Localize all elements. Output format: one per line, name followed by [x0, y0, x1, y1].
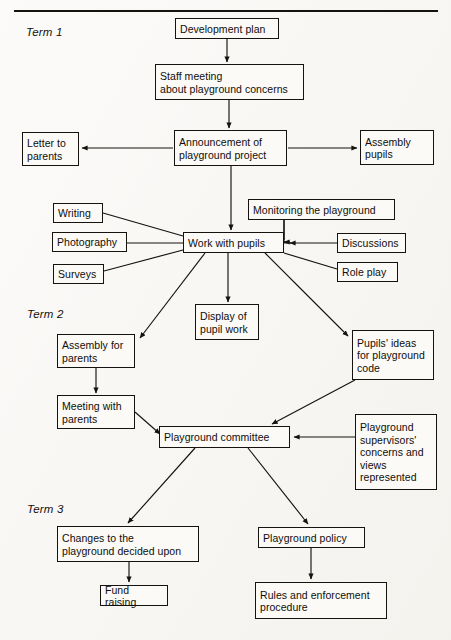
node-changes-to-playground[interactable]: Changes to theplayground decided upon	[57, 526, 199, 562]
node-label-line: Surveys	[58, 268, 96, 281]
node-label-line: Display of	[200, 310, 248, 323]
edge-monitoring-work	[284, 220, 291, 243]
term-label-term-1: Term 1	[26, 26, 63, 38]
node-label-line: for playground	[357, 349, 425, 362]
node-label-line: Photography	[57, 236, 117, 249]
node-label-supervisors-concerns: Playgroundsupervisors'concerns andviewsr…	[360, 421, 424, 484]
header-divider	[14, 10, 438, 12]
node-label-changes-to-playground: Changes to theplayground decided upon	[62, 532, 181, 557]
node-label-line: Changes to the	[62, 532, 181, 545]
node-letter-to-parents[interactable]: Letter toparents	[22, 132, 79, 166]
node-label-line: Playground committee	[164, 431, 269, 444]
node-supervisors-concerns[interactable]: Playgroundsupervisors'concerns andviewsr…	[355, 414, 437, 490]
node-writing[interactable]: Writing	[53, 203, 103, 223]
node-announcement[interactable]: Announcement ofplayground project	[174, 130, 287, 166]
node-label-line: parents	[62, 413, 122, 426]
node-label-photography: Photography	[57, 236, 117, 249]
node-label-line: procedure	[260, 601, 370, 614]
node-staff-meeting[interactable]: Staff meetingabout playground concerns	[155, 64, 304, 100]
node-label-writing: Writing	[58, 207, 91, 220]
node-playground-committee[interactable]: Playground committee	[159, 426, 290, 448]
node-assembly-pupils[interactable]: Assemblypupils	[360, 130, 434, 165]
node-label-line: supervisors'	[360, 434, 424, 447]
node-label-line: Staff meeting	[160, 70, 288, 83]
node-label-work-with-pupils: Work with pupils	[188, 237, 265, 250]
node-label-line: Playground	[360, 421, 424, 434]
node-meeting-with-parents[interactable]: Meeting withparents	[57, 395, 135, 429]
node-role-play[interactable]: Role play	[337, 262, 398, 282]
node-label-line: Meeting with	[62, 400, 122, 413]
node-label-line: parents	[27, 150, 66, 163]
node-pupils-ideas[interactable]: Pupils' ideasfor playgroundcode	[352, 330, 434, 380]
node-label-development-plan: Development plan	[180, 23, 265, 36]
node-label-line: playground decided upon	[62, 545, 181, 558]
node-fund-raising[interactable]: Fund raising	[100, 585, 168, 606]
node-label-line: pupils	[365, 148, 411, 161]
node-label-meeting-with-parents: Meeting withparents	[62, 400, 122, 425]
node-label-discussions: Discussions	[342, 237, 399, 250]
node-label-line: Discussions	[342, 237, 399, 250]
node-label-assembly-pupils: Assemblypupils	[365, 136, 411, 161]
node-label-line: code	[357, 362, 425, 375]
node-label-assembly-for-parents: Assembly forparents	[62, 339, 123, 364]
edge-committee-policy	[248, 448, 308, 524]
node-photography[interactable]: Photography	[52, 232, 127, 252]
node-label-line: Development plan	[180, 23, 265, 36]
node-label-staff-meeting: Staff meetingabout playground concerns	[160, 70, 288, 95]
node-label-letter-to-parents: Letter toparents	[27, 137, 66, 162]
node-monitoring-playground[interactable]: Monitoring the playground	[248, 199, 395, 220]
edge-work-pupils-ideas	[265, 253, 348, 336]
node-label-line: Rules and enforcement	[260, 589, 370, 602]
node-label-line: views	[360, 459, 424, 472]
node-label-line: parents	[62, 352, 123, 365]
node-label-line: Monitoring the playground	[253, 204, 376, 217]
node-label-line: Work with pupils	[188, 237, 265, 250]
node-label-role-play: Role play	[342, 266, 386, 279]
node-label-surveys: Surveys	[58, 268, 96, 281]
node-rules-enforcement[interactable]: Rules and enforcementprocedure	[255, 582, 387, 619]
node-label-line: concerns and	[360, 446, 424, 459]
node-display-pupil-work[interactable]: Display ofpupil work	[195, 304, 259, 340]
node-discussions[interactable]: Discussions	[337, 233, 406, 253]
node-label-line: Letter to	[27, 137, 66, 150]
edge-roleplay-work	[284, 253, 337, 269]
node-label-line: Assembly	[365, 136, 411, 149]
node-label-display-pupil-work: Display ofpupil work	[200, 310, 248, 335]
node-label-line: Pupils' ideas	[357, 337, 425, 350]
node-label-line: represented	[360, 471, 424, 484]
node-label-line: playground project	[179, 149, 266, 162]
edge-meeting-committee	[135, 412, 160, 434]
node-assembly-for-parents[interactable]: Assembly forparents	[57, 334, 135, 368]
node-label-announcement: Announcement ofplayground project	[179, 136, 266, 161]
term-label-term-3: Term 3	[27, 503, 64, 515]
edge-committee-changes	[128, 448, 195, 523]
node-label-line: about playground concerns	[160, 83, 288, 96]
node-label-playground-committee: Playground committee	[164, 431, 269, 444]
node-label-playground-policy: Playground policy	[263, 532, 347, 545]
node-label-line: Role play	[342, 266, 386, 279]
node-label-rules-enforcement: Rules and enforcementprocedure	[260, 589, 370, 614]
term-label-term-2: Term 2	[27, 308, 64, 320]
node-label-line: Announcement of	[179, 136, 266, 149]
node-label-line: Assembly for	[62, 339, 123, 352]
edge-surveys-work	[104, 250, 183, 271]
node-label-monitoring-playground: Monitoring the playground	[253, 204, 376, 217]
node-work-with-pupils[interactable]: Work with pupils	[183, 232, 284, 253]
edge-ideas-committee	[272, 380, 355, 424]
node-label-line: pupil work	[200, 323, 248, 336]
node-label-line: Fund raising	[105, 584, 163, 609]
node-label-pupils-ideas: Pupils' ideasfor playgroundcode	[357, 337, 425, 375]
node-label-line: Writing	[58, 207, 91, 220]
node-label-line: Playground policy	[263, 532, 347, 545]
flowchart-page: Term 1Term 2Term 3 Development planStaff…	[0, 0, 451, 640]
page-header-text	[215, 0, 430, 6]
node-label-fund-raising: Fund raising	[105, 584, 163, 609]
node-playground-policy[interactable]: Playground policy	[258, 527, 365, 548]
node-surveys[interactable]: Surveys	[53, 264, 104, 284]
node-development-plan[interactable]: Development plan	[175, 18, 279, 39]
